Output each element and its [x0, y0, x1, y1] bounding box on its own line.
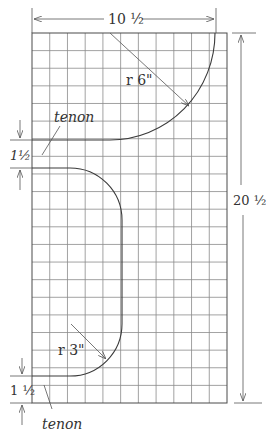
- width-label: 10 ½: [108, 11, 144, 27]
- radius-3-label: r 3": [58, 342, 85, 358]
- radius-6-label: r 6": [126, 72, 153, 88]
- leg-pattern-drawing: 10 ½ 20 ½ 1½ tenon 1 ½ tenon r 6" r 3": [0, 0, 266, 438]
- tenon-bottom-label: tenon: [42, 416, 82, 432]
- tenon-bottom-dimension: 1 ½: [10, 383, 35, 398]
- height-label: 20 ½: [233, 193, 266, 208]
- radius-6-leader: [110, 33, 189, 106]
- tenon-top-dimension: 1½: [10, 148, 31, 163]
- tenon-top-label: tenon: [54, 109, 94, 125]
- tenon-bottom-leader: [44, 385, 52, 409]
